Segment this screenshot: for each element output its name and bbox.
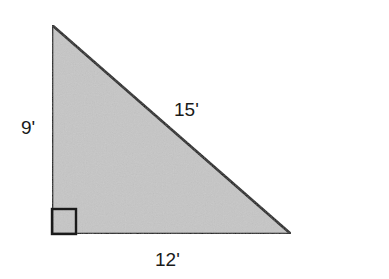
triangle-shape bbox=[52, 25, 291, 234]
right-triangle-diagram bbox=[0, 0, 389, 279]
vertical-leg-label: 9' bbox=[21, 118, 35, 137]
hypotenuse-label: 15' bbox=[174, 100, 199, 119]
horizontal-leg-label: 12' bbox=[155, 250, 180, 269]
